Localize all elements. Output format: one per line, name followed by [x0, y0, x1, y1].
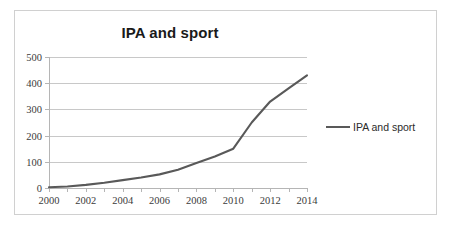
- x-tick-label-2014: 2014: [297, 195, 318, 206]
- x-tick-mark-2013: [289, 188, 290, 192]
- y-tick-label-400: 400: [26, 78, 42, 89]
- x-tick-mark-2007: [178, 188, 179, 192]
- y-tick-label-500: 500: [26, 52, 42, 63]
- x-tick-mark-2002: [86, 188, 87, 192]
- x-tick-mark-2004: [123, 188, 124, 192]
- y-tick-label-300: 300: [26, 104, 42, 115]
- x-tick-mark-2012: [270, 188, 271, 192]
- plot-area: 0100200300400500 20002002200420062008201…: [49, 57, 307, 188]
- x-tick-mark-2009: [215, 188, 216, 192]
- x-tick-label-2004: 2004: [112, 195, 133, 206]
- chart-frame: IPA and sport 0100200300400500 200020022…: [14, 10, 437, 215]
- x-tick-mark-2001: [67, 188, 68, 192]
- x-tick-label-2012: 2012: [260, 195, 281, 206]
- x-tick-mark-2014: [307, 188, 308, 192]
- x-tick-mark-2006: [160, 188, 161, 192]
- y-tick-label-0: 0: [37, 183, 42, 194]
- legend-swatch-ipa-and-sport: [326, 126, 350, 128]
- x-tick-label-2000: 2000: [39, 195, 60, 206]
- series-line-ipa-and-sport: [49, 57, 307, 188]
- x-tick-mark-2008: [196, 188, 197, 192]
- x-tick-mark-2010: [233, 188, 234, 192]
- y-tick-label-200: 200: [26, 130, 42, 141]
- x-tick-mark-2000: [49, 188, 50, 192]
- legend-label-ipa-and-sport: IPA and sport: [353, 121, 415, 133]
- x-tick-mark-2005: [141, 188, 142, 192]
- y-tick-label-100: 100: [26, 156, 42, 167]
- chart-legend: IPA and sport: [326, 121, 415, 133]
- x-tick-label-2008: 2008: [186, 195, 207, 206]
- x-tick-label-2010: 2010: [223, 195, 244, 206]
- x-tick-mark-2011: [252, 188, 253, 192]
- x-tick-label-2006: 2006: [149, 195, 170, 206]
- chart-title: IPA and sport: [15, 24, 325, 41]
- x-tick-label-2002: 2002: [75, 195, 96, 206]
- x-tick-mark-2003: [104, 188, 105, 192]
